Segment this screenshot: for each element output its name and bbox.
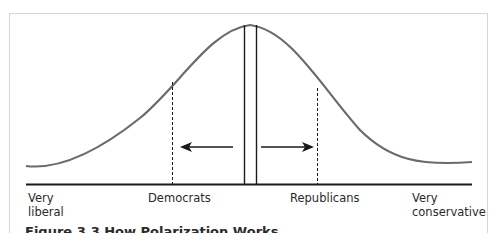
label-very-conservative-line2: conservative — [412, 205, 486, 219]
label-very-conservative: Very conservative — [412, 191, 486, 219]
label-very-liberal-line2: liberal — [28, 205, 64, 219]
label-very-liberal: Very liberal — [28, 191, 64, 219]
label-republicans: Republicans — [290, 191, 359, 205]
figure-caption: Figure 3.3 How Polarization Works — [25, 224, 278, 233]
distribution-curve — [26, 25, 472, 167]
label-very-liberal-line1: Very — [28, 191, 64, 205]
label-democrats: Democrats — [148, 191, 211, 205]
label-very-conservative-line1: Very — [412, 191, 486, 205]
